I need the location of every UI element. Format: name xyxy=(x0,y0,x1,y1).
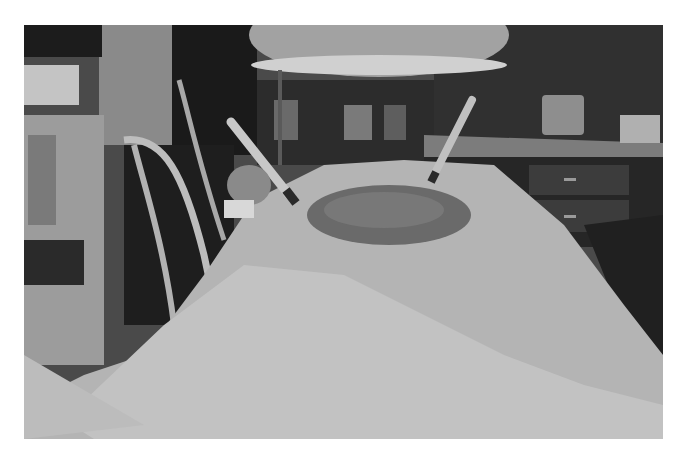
tiled-wall xyxy=(99,25,179,145)
drawer xyxy=(529,165,629,195)
cart-panel xyxy=(28,135,56,225)
monitor xyxy=(24,25,102,57)
container-jar xyxy=(542,95,584,135)
drawer-handle xyxy=(564,178,576,181)
shelf-item xyxy=(384,105,406,140)
patient-head xyxy=(227,165,271,205)
surgical-site-inner xyxy=(324,192,444,228)
lamp-rim xyxy=(251,55,507,75)
tape xyxy=(224,200,254,218)
small-box xyxy=(620,115,660,143)
shelf-item xyxy=(274,100,298,140)
syringe-right-plunger xyxy=(431,172,436,182)
cart-drawer xyxy=(24,240,84,285)
drawer-handle xyxy=(564,215,576,218)
photo-canvas xyxy=(24,25,663,439)
label-panel xyxy=(24,65,79,105)
shelf-item xyxy=(344,105,372,140)
surgical-photo xyxy=(24,25,663,439)
lamp-pole xyxy=(278,70,282,165)
